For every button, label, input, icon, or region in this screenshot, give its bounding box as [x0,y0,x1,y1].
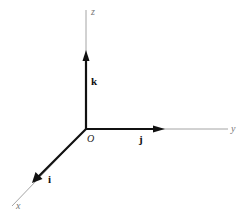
k-arrowhead-icon [83,50,90,61]
k-vector [83,50,90,129]
i-vector-label: i [48,174,51,185]
j-vector [86,126,165,133]
k-vector-label: k [91,76,97,87]
j-vector-label: j [139,134,143,145]
y-axis-label: y [231,124,235,134]
j-arrowhead-icon [153,126,165,133]
i-vector [32,129,86,183]
z-axis-label: z [91,7,95,17]
origin-label: O [87,134,94,144]
x-axis-label: x [16,201,20,211]
coordinate-diagram [0,0,247,216]
